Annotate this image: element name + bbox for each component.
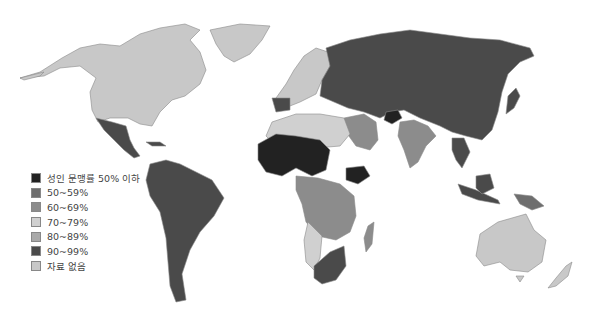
region-tasmania <box>516 276 524 282</box>
legend-label: 90~99% <box>47 246 88 257</box>
region-sahel <box>258 134 330 176</box>
region-india <box>398 120 436 168</box>
legend-label: 성인 문맹률 50% 이하 <box>47 171 140 185</box>
world-literacy-map <box>0 0 599 323</box>
map-legend: 성인 문맹률 50% 이하 50~59% 60~69% 70~79% 80~89… <box>31 171 140 273</box>
region-alaska-tail <box>20 72 44 80</box>
region-north-america <box>20 24 206 126</box>
legend-item-70-79: 70~79% <box>31 215 140 230</box>
region-new-zealand <box>548 262 572 288</box>
region-borneo <box>476 174 494 194</box>
legend-label: 70~79% <box>47 217 88 228</box>
region-greenland <box>210 24 270 62</box>
region-australia <box>476 214 546 272</box>
region-mexico-central-america <box>96 118 140 158</box>
legend-label: 자료 없음 <box>47 259 86 273</box>
region-png <box>514 194 544 210</box>
swatch-icon <box>31 232 41 242</box>
region-japan <box>506 88 520 114</box>
swatch-icon <box>31 217 41 227</box>
legend-label: 80~89% <box>47 231 88 242</box>
region-europe <box>276 48 330 106</box>
swatch-icon <box>31 246 41 256</box>
legend-item-50-59: 50~59% <box>31 186 140 201</box>
legend-item-60-69: 60~69% <box>31 200 140 215</box>
region-central-africa <box>296 176 356 240</box>
legend-item-no-data: 자료 없음 <box>31 259 140 274</box>
region-south-america <box>146 160 224 302</box>
region-afghanistan <box>384 110 402 124</box>
swatch-icon <box>31 202 41 212</box>
region-ethiopia <box>346 166 370 184</box>
legend-label: 60~69% <box>47 202 88 213</box>
legend-item-90-99: 90~99% <box>31 244 140 259</box>
swatch-icon <box>31 188 41 198</box>
region-southeast-asia <box>452 138 470 168</box>
legend-item-80-89: 80~89% <box>31 229 140 244</box>
legend-item-below50: 성인 문맹률 50% 이하 <box>31 171 140 186</box>
swatch-icon <box>31 261 41 271</box>
swatch-icon <box>31 173 41 183</box>
region-iberia <box>272 98 290 112</box>
region-madagascar <box>364 222 374 252</box>
region-caribbean <box>146 142 166 146</box>
legend-label: 50~59% <box>47 187 88 198</box>
